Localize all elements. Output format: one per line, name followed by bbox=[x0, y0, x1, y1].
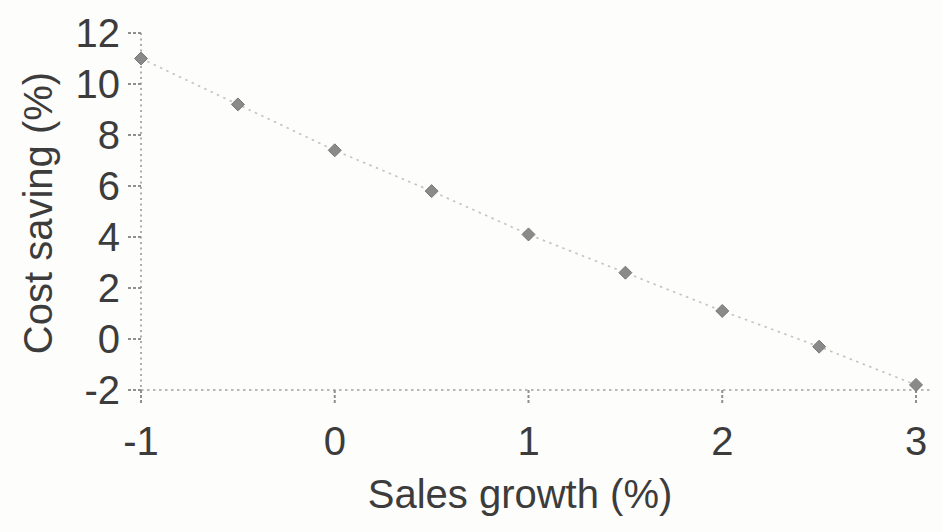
y-axis: -2024681012 bbox=[76, 11, 142, 412]
data-point-marker bbox=[231, 98, 244, 111]
y-tick-label: 2 bbox=[98, 266, 120, 310]
y-tick-label: 10 bbox=[76, 62, 121, 106]
x-tick-label: 3 bbox=[905, 419, 927, 463]
data-point-marker bbox=[619, 266, 632, 279]
x-axis-title: Sales growth (%) bbox=[368, 472, 673, 516]
data-point-marker bbox=[425, 185, 438, 198]
y-tick-label: 6 bbox=[98, 164, 120, 208]
cost-saving-vs-sales-growth-chart: -2024681012 -10123 Cost saving (%) Sales… bbox=[0, 0, 943, 532]
data-point-marker bbox=[522, 228, 535, 241]
x-tick-label: 1 bbox=[517, 419, 539, 463]
data-point-marker bbox=[813, 340, 826, 353]
y-tick-label: 12 bbox=[76, 11, 121, 55]
y-tick-label: 4 bbox=[98, 215, 120, 259]
y-tick-label: 8 bbox=[98, 113, 120, 157]
data-point-marker bbox=[328, 144, 341, 157]
scanned-chart-page: -2024681012 -10123 Cost saving (%) Sales… bbox=[0, 0, 943, 532]
x-tick-label: 0 bbox=[324, 419, 346, 463]
data-point-marker bbox=[135, 52, 148, 65]
data-point-marker bbox=[716, 304, 729, 317]
x-axis: -10123 bbox=[123, 390, 930, 463]
chart-svg: -2024681012 -10123 Cost saving (%) Sales… bbox=[0, 0, 943, 532]
x-tick-label: -1 bbox=[123, 419, 159, 463]
y-axis-title: Cost saving (%) bbox=[16, 72, 60, 354]
y-tick-label: 0 bbox=[98, 317, 120, 361]
x-tick-label: 2 bbox=[711, 419, 733, 463]
y-tick-label: -2 bbox=[84, 368, 120, 412]
series-line bbox=[141, 59, 916, 385]
data-series bbox=[135, 52, 923, 391]
